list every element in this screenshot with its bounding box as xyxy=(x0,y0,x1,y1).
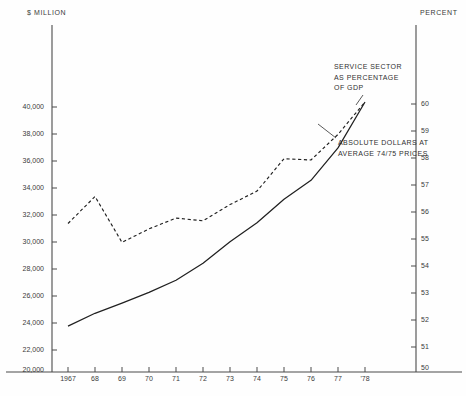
x-tick-label-77: 77 xyxy=(323,375,353,382)
x-tick-label-71: 71 xyxy=(161,375,191,382)
x-tick-label-70: 70 xyxy=(134,375,164,382)
annotation-absolute-dollars: ABSOLUTE DOLLARS AT AVERAGE 74/75 PRICES xyxy=(338,138,429,159)
left-tick-label-28000: 28,000 xyxy=(6,265,44,272)
annotation-service-line-3: OF GDP xyxy=(334,83,402,94)
left-tick-label-36000: 36,000 xyxy=(6,157,44,164)
annotation-service-line-2: AS PERCENTAGE xyxy=(334,73,402,84)
x-tick-label-68: 68 xyxy=(80,375,110,382)
x-tick-label-76: 76 xyxy=(296,375,326,382)
annotation-absolute-line-2: AVERAGE 74/75 PRICES xyxy=(338,149,429,160)
left-tick-label-40000: 40,000 xyxy=(6,103,44,110)
left-tick-label-38000: 38,000 xyxy=(6,130,44,137)
right-tick-label-52: 52 xyxy=(421,316,445,323)
right-tick-label-59: 59 xyxy=(421,127,445,134)
x-tick-label-69: 69 xyxy=(107,375,137,382)
right-tick-label-54: 54 xyxy=(421,262,445,269)
x-tick-label-72: 72 xyxy=(188,375,218,382)
left-tick-label-32000: 32,000 xyxy=(6,211,44,218)
right-tick-label-60: 60 xyxy=(421,100,445,107)
left-tick-label-20000: 20,000 xyxy=(6,366,44,373)
left-tick-label-24000: 24,000 xyxy=(6,319,44,326)
left-tick-label-26000: 26,000 xyxy=(6,292,44,299)
x-axis-ticks xyxy=(68,367,365,372)
leader-line-absolute xyxy=(318,124,336,138)
right-tick-label-51: 51 xyxy=(421,343,445,350)
chart-canvas xyxy=(0,0,466,396)
series-line-absolute-dollars xyxy=(68,102,365,326)
x-tick-label-74: 74 xyxy=(242,375,272,382)
annotation-absolute-line-1: ABSOLUTE DOLLARS AT xyxy=(338,138,429,149)
left-axis-ticks xyxy=(52,107,57,350)
right-tick-label-53: 53 xyxy=(421,289,445,296)
x-tick-label-75: 75 xyxy=(269,375,299,382)
right-tick-label-50: 50 xyxy=(421,364,445,371)
annotation-service-line-1: SERVICE SECTOR xyxy=(334,62,402,73)
left-tick-label-34000: 34,000 xyxy=(6,184,44,191)
right-tick-label-56: 56 xyxy=(421,208,445,215)
right-tick-label-57: 57 xyxy=(421,181,445,188)
x-tick-label-78: '78 xyxy=(350,375,380,382)
left-tick-label-30000: 30,000 xyxy=(6,238,44,245)
leader-line-service xyxy=(356,95,363,105)
x-tick-label-73: 73 xyxy=(215,375,245,382)
x-tick-label-1967: 1967 xyxy=(53,375,83,382)
left-tick-label-22000: 22,000 xyxy=(6,346,44,353)
series-line-service-percentage xyxy=(68,102,365,242)
annotation-service-sector: SERVICE SECTOR AS PERCENTAGE OF GDP xyxy=(334,62,402,94)
right-tick-label-55: 55 xyxy=(421,235,445,242)
chart-figure: $ MILLION PERCENT xyxy=(0,0,466,396)
